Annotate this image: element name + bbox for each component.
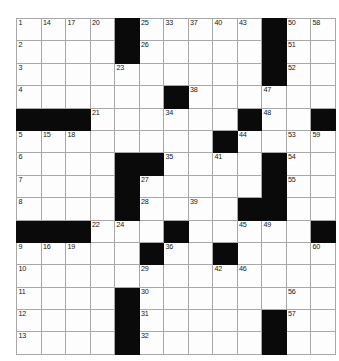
crossword-cell-numbered[interactable]: 27: [139, 175, 164, 197]
crossword-cell[interactable]: [41, 198, 66, 220]
crossword-cell[interactable]: [311, 265, 336, 287]
crossword-cell-numbered[interactable]: 18: [66, 130, 91, 152]
crossword-cell[interactable]: [164, 287, 189, 309]
crossword-cell[interactable]: [41, 86, 66, 108]
crossword-cell[interactable]: [311, 198, 336, 220]
crossword-cell-numbered[interactable]: 34: [164, 108, 189, 130]
crossword-cell-numbered[interactable]: 17: [66, 19, 91, 41]
crossword-cell[interactable]: [66, 265, 91, 287]
crossword-cell[interactable]: [41, 265, 66, 287]
crossword-cell-numbered[interactable]: 58: [311, 19, 336, 41]
crossword-cell[interactable]: [213, 198, 238, 220]
crossword-cell-numbered[interactable]: 5: [17, 130, 42, 152]
crossword-cell-numbered[interactable]: 4: [17, 86, 42, 108]
crossword-cell[interactable]: [286, 198, 311, 220]
crossword-cell[interactable]: [286, 242, 311, 264]
crossword-cell[interactable]: [213, 310, 238, 332]
crossword-cell[interactable]: [262, 265, 287, 287]
crossword-cell-numbered[interactable]: 6: [17, 153, 42, 175]
crossword-cell[interactable]: [188, 265, 213, 287]
crossword-cell-numbered[interactable]: 14: [41, 19, 66, 41]
crossword-cell[interactable]: [213, 41, 238, 63]
crossword-cell-numbered[interactable]: 13: [17, 332, 42, 354]
crossword-cell[interactable]: [66, 41, 91, 63]
crossword-cell[interactable]: [90, 242, 115, 264]
crossword-cell[interactable]: [139, 130, 164, 152]
crossword-cell[interactable]: [311, 287, 336, 309]
crossword-cell[interactable]: [237, 153, 262, 175]
crossword-cell[interactable]: [139, 220, 164, 242]
crossword-cell[interactable]: [213, 287, 238, 309]
crossword-cell[interactable]: [262, 130, 287, 152]
crossword-cell[interactable]: [286, 86, 311, 108]
crossword-cell-numbered[interactable]: 54: [286, 153, 311, 175]
crossword-cell-numbered[interactable]: 47: [262, 86, 287, 108]
crossword-cell[interactable]: [164, 310, 189, 332]
crossword-cell[interactable]: [286, 220, 311, 242]
crossword-cell[interactable]: [164, 41, 189, 63]
crossword-cell[interactable]: [115, 130, 140, 152]
crossword-cell[interactable]: [237, 242, 262, 264]
crossword-cell[interactable]: [90, 287, 115, 309]
crossword-cell-numbered[interactable]: 32: [139, 332, 164, 354]
crossword-cell-numbered[interactable]: 9: [17, 242, 42, 264]
crossword-cell[interactable]: [115, 108, 140, 130]
crossword-cell[interactable]: [164, 265, 189, 287]
crossword-cell-numbered[interactable]: 40: [213, 19, 238, 41]
crossword-cell[interactable]: [115, 242, 140, 264]
crossword-cell-numbered[interactable]: 2: [17, 41, 42, 63]
crossword-cell[interactable]: [164, 130, 189, 152]
crossword-cell-numbered[interactable]: 3: [17, 63, 42, 85]
crossword-cell-numbered[interactable]: 21: [90, 108, 115, 130]
crossword-cell-numbered[interactable]: 42: [213, 265, 238, 287]
crossword-cell-numbered[interactable]: 36: [164, 242, 189, 264]
crossword-cell-numbered[interactable]: 57: [286, 310, 311, 332]
crossword-cell[interactable]: [286, 108, 311, 130]
crossword-cell[interactable]: [139, 63, 164, 85]
crossword-cell-numbered[interactable]: 8: [17, 198, 42, 220]
crossword-cell[interactable]: [213, 332, 238, 354]
crossword-cell[interactable]: [188, 332, 213, 354]
crossword-cell-numbered[interactable]: 15: [41, 130, 66, 152]
crossword-cell[interactable]: [213, 108, 238, 130]
crossword-cell[interactable]: [237, 41, 262, 63]
crossword-cell-numbered[interactable]: 50: [286, 19, 311, 41]
crossword-cell[interactable]: [41, 153, 66, 175]
crossword-cell[interactable]: [188, 175, 213, 197]
crossword-cell-numbered[interactable]: 25: [139, 19, 164, 41]
crossword-cell-numbered[interactable]: 24: [115, 220, 140, 242]
crossword-cell[interactable]: [311, 175, 336, 197]
crossword-cell-numbered[interactable]: 51: [286, 41, 311, 63]
crossword-cell[interactable]: [188, 287, 213, 309]
crossword-cell-numbered[interactable]: 53: [286, 130, 311, 152]
crossword-cell[interactable]: [311, 310, 336, 332]
crossword-cell[interactable]: [90, 265, 115, 287]
crossword-cell[interactable]: [90, 63, 115, 85]
crossword-cell[interactable]: [213, 63, 238, 85]
crossword-cell[interactable]: [237, 86, 262, 108]
crossword-cell[interactable]: [311, 41, 336, 63]
crossword-cell[interactable]: [237, 175, 262, 197]
crossword-cell[interactable]: [164, 332, 189, 354]
crossword-cell[interactable]: [188, 220, 213, 242]
crossword-cell-numbered[interactable]: 46: [237, 265, 262, 287]
crossword-cell-numbered[interactable]: 60: [311, 242, 336, 264]
crossword-cell-numbered[interactable]: 39: [188, 198, 213, 220]
crossword-cell-numbered[interactable]: 37: [188, 19, 213, 41]
crossword-cell[interactable]: [164, 175, 189, 197]
crossword-cell[interactable]: [188, 153, 213, 175]
crossword-cell[interactable]: [66, 198, 91, 220]
crossword-cell[interactable]: [237, 287, 262, 309]
crossword-cell[interactable]: [311, 332, 336, 354]
crossword-cell-numbered[interactable]: 7: [17, 175, 42, 197]
crossword-cell[interactable]: [66, 310, 91, 332]
crossword-cell[interactable]: [66, 332, 91, 354]
crossword-cell-numbered[interactable]: 31: [139, 310, 164, 332]
crossword-cell[interactable]: [66, 86, 91, 108]
crossword-cell-numbered[interactable]: 16: [41, 242, 66, 264]
crossword-cell-numbered[interactable]: 11: [17, 287, 42, 309]
crossword-cell[interactable]: [262, 287, 287, 309]
crossword-cell[interactable]: [66, 63, 91, 85]
crossword-cell-numbered[interactable]: 55: [286, 175, 311, 197]
crossword-cell-numbered[interactable]: 1: [17, 19, 42, 41]
